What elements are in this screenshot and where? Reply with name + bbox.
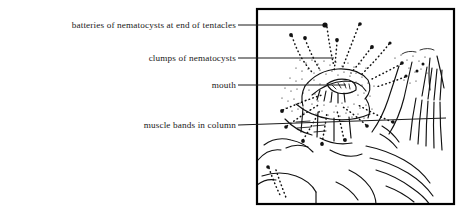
- anemone-drawing: [257, 22, 444, 205]
- leader-endpoint-batteries: [322, 22, 327, 27]
- leader-lines-group: [238, 22, 446, 125]
- leader-line-muscle: [238, 118, 446, 125]
- substrate-hatching: [336, 49, 444, 206]
- illustration-svg: [0, 0, 466, 213]
- illustration-group: [257, 9, 454, 205]
- oral-disc-and-mouth: [302, 69, 370, 118]
- illustration-frame: [257, 9, 454, 204]
- column-and-muscle-bands: [257, 104, 370, 205]
- figure-page: batteries of nematocysts at end of tenta…: [0, 0, 466, 213]
